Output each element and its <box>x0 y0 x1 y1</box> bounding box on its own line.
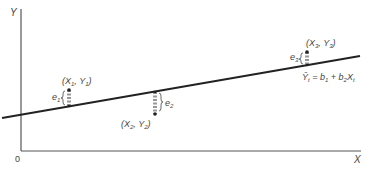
brace-1 <box>61 91 65 105</box>
x-axis-label: X <box>353 154 361 165</box>
point-label-3: (X3, Y3) <box>306 38 336 49</box>
y-axis-label: Y <box>10 7 18 18</box>
point-marker-1 <box>67 88 71 92</box>
point-marker-3 <box>305 50 309 54</box>
point-label-1: (X1, Y1) <box>62 76 92 87</box>
brace-2 <box>159 93 163 111</box>
brace-3 <box>299 53 303 64</box>
point-label-2: (X2, Y2) <box>121 119 151 130</box>
residual-label-1: e1 <box>52 92 60 103</box>
regression-equation: Ŷt = b1 + b2Xt <box>302 72 355 83</box>
point-marker-2 <box>153 112 157 116</box>
residual-label-2: e2 <box>165 98 174 109</box>
origin-label: 0 <box>15 154 20 164</box>
residual-label-3: e3 <box>290 52 299 63</box>
regression-diagram: Y X 0 (X1, Y1) e1 e2 (X2, Y2) <box>0 0 375 173</box>
